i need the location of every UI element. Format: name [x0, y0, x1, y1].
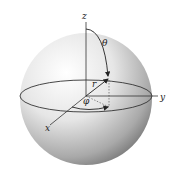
spherical-coordinates-diagram: z y x r θ φ: [0, 0, 176, 176]
diagram-svg: z y x r θ φ: [0, 0, 176, 176]
y-axis-label: y: [159, 92, 166, 102]
z-axis-label: z: [81, 11, 87, 21]
phi-label: φ: [83, 96, 90, 106]
x-axis-label: x: [45, 123, 50, 133]
radius-label: r: [92, 79, 97, 89]
theta-label: θ: [102, 38, 108, 48]
